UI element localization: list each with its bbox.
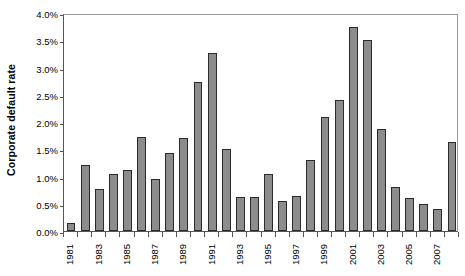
y-axis-tick-mark	[60, 97, 64, 98]
y-axis-tick-mark	[60, 70, 64, 71]
y-axis-tick-mark	[60, 151, 64, 152]
bar	[306, 160, 315, 231]
x-axis-tick-label-text: 1987	[149, 244, 160, 265]
x-axis-tick-mark	[190, 232, 191, 237]
bar	[194, 82, 203, 231]
y-axis-tick-labels: 0.0%0.5%1.0%1.5%2.0%2.5%3.0%3.5%4.0%	[20, 8, 58, 240]
x-axis-tick-mark	[105, 232, 106, 237]
x-axis-tick-label-text: 1983	[93, 244, 104, 265]
x-axis-tick-mark	[162, 232, 163, 237]
y-axis-tick-label: 2.0%	[20, 118, 58, 129]
bar	[250, 197, 259, 231]
x-axis-tick-mark	[373, 232, 374, 237]
x-axis-tick-label: 1997	[290, 238, 302, 274]
y-axis-tick-label: 3.5%	[20, 36, 58, 47]
x-axis-tick-mark	[148, 232, 149, 237]
bar	[208, 53, 217, 231]
y-axis-tick-mark	[60, 206, 64, 207]
x-axis-tick-mark	[317, 232, 318, 237]
x-axis-tick-mark	[246, 232, 247, 237]
x-axis-tick-mark	[331, 232, 332, 237]
x-axis-tick-mark	[176, 232, 177, 237]
x-axis-tick-label-text: 2007	[431, 244, 442, 265]
bar	[151, 179, 160, 231]
bar	[123, 170, 132, 231]
bar	[109, 174, 118, 231]
x-axis-tick-label: 1999	[318, 238, 330, 274]
x-axis-tick-mark	[444, 232, 445, 237]
x-axis-tick-mark	[261, 232, 262, 237]
x-axis-tick-mark	[430, 232, 431, 237]
y-axis-tick-label: 3.0%	[20, 63, 58, 74]
y-axis-tick-label: 2.5%	[20, 90, 58, 101]
x-axis-tick-label: 1991	[205, 238, 217, 274]
x-axis-tick-label: 1981	[64, 238, 76, 274]
bar	[67, 223, 76, 231]
x-axis-tick-mark	[402, 232, 403, 237]
plot-area	[63, 14, 458, 232]
x-axis-tick-label-text: 1991	[206, 244, 217, 265]
bar	[278, 201, 287, 231]
bar	[321, 117, 330, 231]
bar	[95, 189, 104, 232]
x-axis-tick-mark	[275, 232, 276, 237]
x-axis-tick-label: 2001	[346, 238, 358, 274]
x-axis-tick-mark	[458, 232, 459, 237]
x-axis-tick-label-text: 1999	[318, 244, 329, 265]
bar	[137, 137, 146, 231]
x-axis-tick-mark	[345, 232, 346, 237]
bar	[179, 138, 188, 231]
x-axis-tick-mark	[63, 232, 64, 237]
x-axis-tick-label-text: 1997	[290, 244, 301, 265]
x-axis-tick-label: 1985	[120, 238, 132, 274]
x-axis-tick-mark	[119, 232, 120, 237]
x-axis-tick-label: 1995	[262, 238, 274, 274]
y-axis-tick-mark	[60, 179, 64, 180]
x-axis-tick-label-text: 2003	[375, 244, 386, 265]
y-axis-title-label: Corporate default rate	[5, 64, 17, 176]
y-axis-tick-label: 0.5%	[20, 199, 58, 210]
x-axis-tick-mark	[232, 232, 233, 237]
x-axis-tick-mark	[204, 232, 205, 237]
x-axis-tick-mark	[303, 232, 304, 237]
x-axis-tick-mark	[218, 232, 219, 237]
x-axis-tick-label: 1989	[177, 238, 189, 274]
x-axis-tick-mark	[77, 232, 78, 237]
y-axis-tick-mark	[60, 42, 64, 43]
bar	[292, 196, 301, 231]
bar	[391, 187, 400, 231]
x-axis-tick-mark	[359, 232, 360, 237]
x-axis-tick-label-text: 2005	[403, 244, 414, 265]
y-axis-tick-mark	[60, 124, 64, 125]
bar	[433, 209, 442, 231]
bars-layer	[64, 15, 457, 231]
bar	[236, 197, 245, 231]
x-axis-tick-label-text: 1985	[121, 244, 132, 265]
corporate-default-rate-bar-chart: Corporate default rate 0.0%0.5%1.0%1.5%2…	[0, 0, 465, 276]
bar	[419, 204, 428, 231]
bar	[405, 198, 414, 231]
x-axis-tick-marks	[63, 232, 458, 237]
bar	[448, 142, 457, 231]
x-axis-tick-label: 2003	[374, 238, 386, 274]
y-axis-tick-label: 1.0%	[20, 172, 58, 183]
x-axis-tick-label-text: 2001	[347, 244, 358, 265]
x-axis-tick-mark	[134, 232, 135, 237]
bar	[363, 40, 372, 231]
x-axis-tick-label: 1993	[233, 238, 245, 274]
x-axis-tick-mark	[387, 232, 388, 237]
x-axis-tick-label: 1987	[149, 238, 161, 274]
x-axis-tick-label-text: 1981	[65, 244, 76, 265]
x-axis-tick-label: 1983	[92, 238, 104, 274]
x-axis-tick-mark	[416, 232, 417, 237]
x-axis-tick-label-text: 1989	[177, 244, 188, 265]
y-axis-tick-label: 0.0%	[20, 227, 58, 238]
y-axis-tick-mark	[60, 15, 64, 16]
y-axis-title: Corporate default rate	[0, 0, 22, 240]
bar	[264, 174, 273, 231]
x-axis-tick-label-text: 1995	[262, 244, 273, 265]
y-axis-tick-label: 4.0%	[20, 9, 58, 20]
bar	[222, 149, 231, 231]
x-axis-tick-mark	[91, 232, 92, 237]
bar	[349, 27, 358, 231]
